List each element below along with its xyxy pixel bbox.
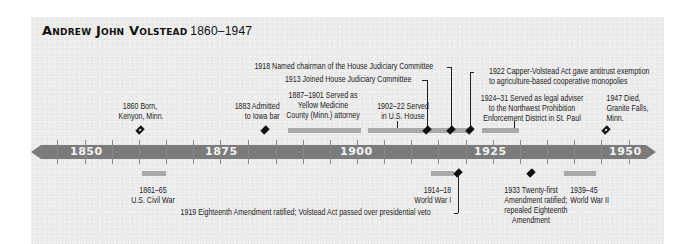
label-line: 1861–65 (125, 186, 182, 196)
span-bar-ww1 (431, 171, 454, 176)
label-line: Kenyon, Minn. (119, 112, 162, 122)
axis-label-1900: 1900 (340, 145, 373, 159)
label-line: 1914–18 (404, 186, 451, 196)
tick (166, 140, 167, 164)
span-bar-county-attorney (288, 128, 361, 133)
tick (139, 140, 140, 164)
tick (411, 140, 412, 164)
leader-line (397, 121, 398, 128)
tick (57, 140, 58, 164)
tick (248, 140, 249, 164)
label-line: County (Minn.) attorney (284, 111, 361, 121)
leader-line (451, 67, 452, 128)
axis-left-arrow (31, 145, 41, 159)
label-line: 1922 Capper-Volstead Act gave antitrust … (489, 67, 661, 77)
span-bar-ww2 (564, 171, 596, 176)
tick (330, 140, 331, 164)
tick (438, 140, 439, 164)
label-line: to agriculture-based cooperative monopol… (489, 77, 661, 87)
label-line: Amendment (504, 216, 557, 226)
tick (193, 140, 194, 164)
label-line: 1933 Twenty-first (504, 186, 557, 196)
label-line: in U.S. House (376, 112, 429, 122)
label-line: 1887–1901 Served as (284, 91, 361, 101)
label-line: U.S. Civil War (125, 196, 182, 206)
event-civil-war-label: 1861–65 U.S. Civil War (125, 186, 182, 206)
tick (384, 140, 385, 164)
label-line: 1902–22 Served (376, 102, 429, 112)
label-line: Minn. (607, 114, 650, 124)
label-line: World War II (570, 196, 622, 206)
event-judiciary-join-label: 1913 Joined House Judiciary Committee (281, 75, 412, 85)
tick (112, 140, 113, 164)
tick (303, 140, 304, 164)
page-title: Andrew John Volstead1860–1947 (42, 23, 252, 38)
label-line: 1939–45 (570, 186, 622, 196)
tick (601, 140, 602, 164)
label-line: 1947 Died, (607, 94, 650, 104)
axis-label-1925: 1925 (474, 145, 507, 159)
event-eighteenth-label: 1919 Eighteenth Amendment ratified; Vols… (169, 208, 430, 218)
axis-label-1850: 1850 (70, 145, 103, 159)
event-ww2-label: 1939–45 World War II (570, 186, 622, 206)
event-county-attorney-label: 1887–1901 Served as Yellow Medicine Coun… (284, 91, 361, 121)
event-legal-adviser-label: 1924–31 Served as legal adviser to the N… (479, 94, 586, 124)
label-line: 1924–31 Served as legal adviser (479, 94, 586, 104)
span-bar-legal-adviser (482, 128, 519, 133)
event-twentyfirst-label: 1933 Twenty-first Amendment ratified; re… (504, 186, 557, 226)
leader-line (454, 213, 458, 214)
axis-label-1950: 1950 (609, 145, 642, 159)
label-line: Yellow Medicine (284, 101, 361, 111)
tick (547, 140, 548, 164)
event-died-label: 1947 Died, Granite Falls, Minn. (607, 94, 650, 124)
tick (574, 140, 575, 164)
tick (520, 140, 521, 164)
label-line: 1883 Admitted (226, 102, 279, 112)
label-line: Amendment ratified; (504, 196, 557, 206)
label-line: Enforcement District in St. Paul (479, 114, 586, 124)
label-line: repealed Eighteenth (504, 206, 557, 216)
leader-line (470, 72, 471, 128)
leader-line (427, 80, 428, 128)
event-capper-volstead-label: 1922 Capper-Volstead Act gave antitrust … (489, 67, 661, 87)
axis-right-arrow (646, 145, 656, 159)
tick (466, 140, 467, 164)
label-line: Granite Falls, (607, 104, 650, 114)
title-years: 1860–1947 (190, 24, 252, 38)
axis-label-1875: 1875 (205, 145, 238, 159)
leader-line (458, 175, 459, 213)
label-line: 1860 Born, (119, 102, 162, 112)
label-line: World War I (404, 196, 451, 206)
event-us-house-label: 1902–22 Served in U.S. House (376, 102, 429, 122)
label-line: to the Northwest Prohibition (479, 104, 586, 114)
title-name: Andrew John Volstead (42, 23, 187, 38)
span-bar-civil-war (142, 171, 166, 176)
event-ww1-label: 1914–18 World War I (404, 186, 451, 206)
event-iowa-bar-label: 1883 Admitted to Iowa bar (226, 102, 279, 122)
leader-line (514, 121, 515, 128)
label-line: to Iowa bar (226, 112, 279, 122)
event-born-label: 1860 Born, Kenyon, Minn. (119, 102, 162, 122)
tick (276, 140, 277, 164)
event-judiciary-chair-label: 1918 Named chairman of the House Judicia… (254, 62, 431, 72)
